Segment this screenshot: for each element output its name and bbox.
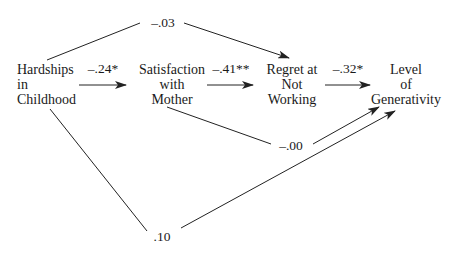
edge-hardships-to-coef-10 (50, 109, 147, 231)
node-label-line: Working (267, 92, 318, 107)
edge-coef-03-to-regret-arrow (184, 23, 289, 58)
node-label-line: Regret at (267, 62, 318, 77)
node-label-line: Satisfaction (139, 62, 205, 77)
node-label-line: Level (371, 62, 441, 77)
node-hardships-in-childhood: Hardships in Childhood (17, 62, 76, 107)
coefficient-regret-generativity: –.32* (333, 62, 363, 76)
node-label-line: Not (267, 77, 318, 92)
node-label-line: Childhood (17, 92, 76, 107)
node-label-line: in (17, 77, 76, 92)
node-label-line: with (139, 77, 205, 92)
edge-satisfaction-to-coef-00 (167, 107, 271, 144)
coefficient-hardships-regret: –.03 (151, 16, 175, 30)
edge-coef-10-to-generativity-arrow (181, 111, 395, 228)
node-regret-at-not-working: Regret at Not Working (267, 62, 318, 107)
coefficient-hardships-generativity: .10 (154, 230, 171, 244)
diagram-edges (0, 0, 453, 255)
node-label-line: Generativity (371, 92, 441, 107)
node-level-of-generativity: Level of Generativity (371, 62, 441, 107)
coefficient-satisfaction-generativity: –.00 (279, 139, 303, 153)
node-satisfaction-with-mother: Satisfaction with Mother (139, 62, 205, 107)
coefficient-hardships-satisfaction: –.24* (88, 62, 118, 76)
node-label-line: of (371, 77, 441, 92)
node-label-line: Hardships (17, 62, 76, 77)
node-label-line: Mother (139, 92, 205, 107)
coefficient-satisfaction-regret: –.41** (212, 62, 249, 76)
edge-hardships-to-coef-03 (47, 23, 140, 60)
